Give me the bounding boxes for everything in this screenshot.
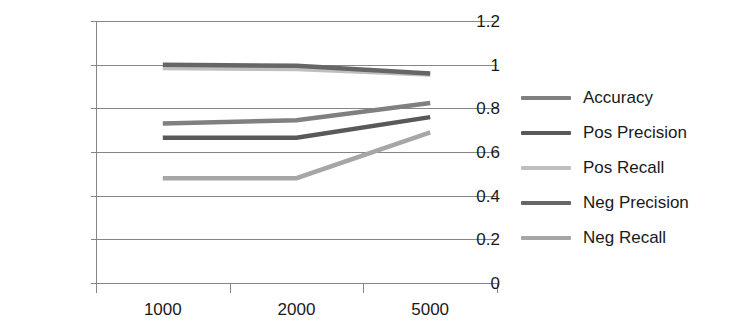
y-axis-tick-label: 1.2 — [416, 13, 500, 30]
x-axis-tick-label: 1000 — [96, 301, 230, 318]
legend-color-swatch — [521, 201, 571, 205]
legend-item[interactable]: Pos Precision — [521, 115, 730, 150]
series-line — [163, 103, 430, 124]
y-axis-tick-label: 0.2 — [416, 231, 500, 248]
chart-legend: AccuracyPos PrecisionPos RecallNeg Preci… — [521, 80, 730, 255]
legend-item-label: Pos Recall — [583, 159, 664, 176]
legend-item-label: Neg Recall — [583, 229, 666, 246]
data-series-lines — [163, 65, 430, 179]
legend-item[interactable]: Accuracy — [521, 80, 730, 115]
legend-item-label: Neg Precision — [583, 194, 689, 211]
legend-color-swatch — [521, 236, 571, 240]
chart-container: 00.20.40.60.811.2 100020005000 AccuracyP… — [0, 0, 730, 330]
legend-item[interactable]: Neg Precision — [521, 185, 730, 220]
legend-color-swatch — [521, 166, 571, 170]
legend-item[interactable]: Pos Recall — [521, 150, 730, 185]
legend-color-swatch — [521, 131, 571, 135]
y-axis-tick-label: 0 — [416, 275, 500, 292]
x-axis-tick-label: 5000 — [363, 301, 497, 318]
y-axis-ticks — [91, 22, 96, 284]
legend-item-label: Accuracy — [583, 89, 653, 106]
y-axis-tick-label: 0.6 — [416, 144, 500, 161]
y-axis-tick-label: 1 — [416, 57, 500, 74]
legend-color-swatch — [521, 96, 571, 100]
plot-area: 00.20.40.60.811.2 100020005000 — [0, 0, 500, 330]
x-axis-tick-label: 2000 — [230, 301, 364, 318]
legend-item[interactable]: Neg Recall — [521, 220, 730, 255]
y-axis-tick-label: 0.4 — [416, 188, 500, 205]
legend-item-label: Pos Precision — [583, 124, 687, 141]
y-axis-tick-label: 0.8 — [416, 100, 500, 117]
